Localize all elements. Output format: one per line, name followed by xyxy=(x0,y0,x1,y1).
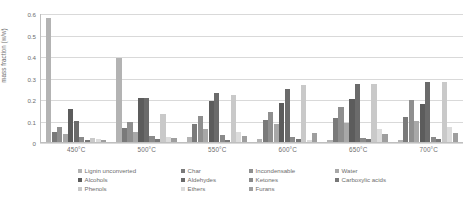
x-axis-ticks: 450°C500°C550°C600°C650°C700°C xyxy=(41,146,464,153)
bar xyxy=(398,140,403,142)
legend-item[interactable]: Ketones xyxy=(249,176,335,183)
y-tick-label: 0.6 xyxy=(2,11,36,18)
x-tick-label: 550°C xyxy=(182,146,253,153)
legend-label: Furans xyxy=(256,185,275,192)
x-tick-label: 700°C xyxy=(394,146,465,153)
bar-chart: 00.10.20.30.40.50.6 mass fraction (w/w) … xyxy=(0,0,467,202)
bar xyxy=(301,85,306,142)
legend-column: Lignin unconvertedAlcoholsPhenols xyxy=(78,167,181,192)
legend-label: Ethers xyxy=(188,185,206,192)
x-tick-label: 450°C xyxy=(41,146,112,153)
bar xyxy=(198,116,203,142)
legend-swatch-icon xyxy=(249,178,253,182)
y-axis-label: mass fraction (w/w) xyxy=(0,0,7,121)
bar xyxy=(160,114,165,142)
y-tick-label: 0.3 xyxy=(2,75,36,82)
bar xyxy=(52,132,57,142)
bar xyxy=(127,122,132,142)
y-tick-label: 0.5 xyxy=(2,32,36,39)
legend-swatch-icon xyxy=(249,187,253,191)
bar xyxy=(366,139,371,142)
legend-label: Carboxylic acids xyxy=(342,176,386,183)
y-tick-label: 0.2 xyxy=(2,97,36,104)
bar xyxy=(436,139,441,142)
bar xyxy=(327,140,332,142)
bar xyxy=(63,134,68,142)
legend-label: Lignin unconverted xyxy=(85,167,137,174)
legend-swatch-icon xyxy=(181,169,185,173)
bar xyxy=(68,109,73,142)
bar xyxy=(155,139,160,142)
chart-legend: Lignin unconvertedAlcoholsPhenolsCharAld… xyxy=(78,167,450,192)
bar xyxy=(85,140,90,142)
bar xyxy=(138,98,143,142)
legend-swatch-icon xyxy=(181,178,185,182)
legend-item[interactable]: Carboxylic acids xyxy=(335,176,435,183)
bar xyxy=(312,133,317,142)
bar xyxy=(442,82,447,142)
bar-group xyxy=(393,14,463,142)
legend-item[interactable]: Furans xyxy=(249,185,335,192)
bar xyxy=(447,127,452,142)
bar xyxy=(382,134,387,142)
legend-column: WaterCarboxylic acids xyxy=(335,167,435,192)
bar xyxy=(279,103,284,142)
bars xyxy=(187,14,247,142)
bar xyxy=(431,137,436,142)
bar xyxy=(133,132,138,142)
legend-column: CharAldehydesEthers xyxy=(181,167,249,192)
bar xyxy=(74,121,79,142)
bars xyxy=(398,14,458,142)
x-tick-label: 650°C xyxy=(323,146,394,153)
bar xyxy=(57,127,62,142)
legend-item[interactable]: Lignin unconverted xyxy=(78,167,181,174)
legend-label: Char xyxy=(188,167,201,174)
bar xyxy=(209,101,214,142)
bar xyxy=(307,140,312,142)
bar xyxy=(220,135,225,142)
bar xyxy=(192,124,197,142)
legend-item[interactable]: Phenols xyxy=(78,185,181,192)
legend-item[interactable]: Alcohols xyxy=(78,176,181,183)
legend-item[interactable]: Incondensable xyxy=(249,167,335,174)
legend-item[interactable]: Water xyxy=(335,167,435,174)
legend-item[interactable]: Ethers xyxy=(181,185,249,192)
bar xyxy=(236,132,241,142)
bar xyxy=(377,129,382,142)
legend-label: Aldehydes xyxy=(188,176,216,183)
bar xyxy=(371,84,376,142)
bar xyxy=(355,84,360,142)
bar xyxy=(101,140,106,142)
legend-swatch-icon xyxy=(78,169,82,173)
bar xyxy=(290,137,295,142)
bar xyxy=(349,99,354,142)
bar xyxy=(171,138,176,142)
y-tick-label: 0.4 xyxy=(2,54,36,61)
legend-swatch-icon xyxy=(335,178,339,182)
legend-label: Alcohols xyxy=(85,176,108,183)
bar xyxy=(225,140,230,142)
bar xyxy=(203,129,208,142)
x-tick-label: 500°C xyxy=(112,146,183,153)
bar xyxy=(268,112,273,142)
bar xyxy=(453,133,458,142)
legend-item[interactable]: Aldehydes xyxy=(181,176,249,183)
legend-swatch-icon xyxy=(78,178,82,182)
bar-group xyxy=(252,14,322,142)
bar xyxy=(338,107,343,142)
plot-area xyxy=(40,14,463,143)
bar xyxy=(344,123,349,142)
bar xyxy=(242,136,247,142)
y-tick-label: 0 xyxy=(2,140,36,147)
bar xyxy=(409,100,414,142)
legend-item[interactable]: Char xyxy=(181,167,249,174)
legend-label: Incondensable xyxy=(256,167,296,174)
bar xyxy=(96,139,101,142)
bars xyxy=(327,14,387,142)
bar xyxy=(333,118,338,142)
bar xyxy=(166,137,171,142)
bar xyxy=(149,136,154,142)
x-axis-line xyxy=(40,142,463,143)
bar xyxy=(90,138,95,142)
bar xyxy=(122,128,127,142)
